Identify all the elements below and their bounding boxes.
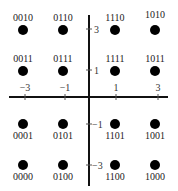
point-label: 0110 (53, 12, 73, 23)
constellation-point (58, 119, 68, 129)
point-label: 1000 (145, 171, 165, 182)
constellation-point (18, 66, 28, 76)
point-label: 0000 (13, 171, 33, 182)
constellation-point (110, 160, 120, 170)
constellation-point (110, 66, 120, 76)
x-tick-label: −3 (20, 82, 31, 93)
point-label: 1110 (105, 12, 124, 23)
constellation-diagram: −3 −1 1 3 3 1 −1 −3 0010 0110 1110 1010 … (0, 0, 178, 191)
y-tick-label: −1 (92, 119, 103, 130)
point-label: 0010 (13, 12, 33, 23)
constellation-point (18, 160, 28, 170)
constellation-point (18, 25, 28, 35)
constellation-point (110, 119, 120, 129)
point-label: 1101 (105, 130, 125, 141)
constellation-point (58, 160, 68, 170)
x-tick-label: 1 (114, 82, 119, 93)
constellation-point (18, 119, 28, 129)
y-tick-label: 3 (94, 24, 99, 35)
point-label: 1011 (145, 53, 165, 64)
x-tick-label: −1 (60, 82, 71, 93)
constellation-point (58, 66, 68, 76)
constellation-point (150, 119, 160, 129)
point-label: 0011 (13, 53, 33, 64)
constellation-point (150, 66, 160, 76)
point-label: 0100 (53, 171, 73, 182)
point-label: 0001 (13, 130, 33, 141)
y-tick-label: −3 (92, 160, 103, 171)
point-label: 1100 (105, 171, 125, 182)
point-label: 0111 (53, 53, 72, 64)
constellation-point (110, 25, 120, 35)
point-label: 1111 (106, 53, 125, 64)
point-label: 1001 (145, 130, 165, 141)
point-label: 0101 (53, 130, 73, 141)
y-tick-label: 1 (94, 65, 99, 76)
constellation-point (58, 25, 68, 35)
point-label: 1010 (145, 9, 165, 20)
constellation-point (150, 160, 160, 170)
constellation-point (150, 25, 160, 35)
x-tick-label: 3 (156, 82, 161, 93)
